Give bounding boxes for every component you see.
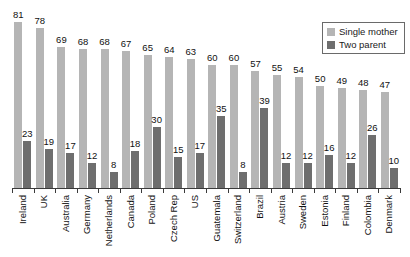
bar-value-label: 78	[35, 15, 46, 26]
axis-tick	[12, 188, 13, 193]
bar-value-label: 68	[78, 36, 89, 47]
axis-tick	[77, 188, 78, 193]
x-axis-label: Canada	[126, 195, 136, 228]
bar-value-label: 10	[389, 155, 400, 166]
bar-single: 81	[14, 22, 22, 188]
bar-group: 6035	[206, 14, 228, 188]
chart-legend: Single motherTwo parent	[322, 22, 405, 54]
bar-two: 12	[282, 163, 290, 188]
bar-single: 48	[359, 90, 367, 188]
bar-value-label: 12	[87, 150, 98, 161]
bar-chart: 8123781969176812688671865306415631760356…	[0, 0, 410, 257]
bar-two: 16	[325, 155, 333, 188]
x-axis-label: Australia	[61, 195, 71, 232]
x-axis-label-cell: Denmark	[379, 195, 401, 257]
axis-tick	[98, 188, 99, 193]
x-axis-label-cell: Sweden	[292, 195, 314, 257]
x-axis-label: Ireland	[18, 195, 28, 224]
bar-value-label: 64	[164, 44, 175, 55]
x-axis-label-cell: Netherlands	[98, 195, 120, 257]
bar-value-label: 8	[111, 159, 116, 170]
bar-two: 17	[66, 153, 74, 188]
x-axis-label-cell: Poland	[141, 195, 163, 257]
legend-label: Single mother	[339, 26, 398, 37]
x-axis-label: Switzerland	[233, 195, 243, 244]
x-axis-label-cell: US	[185, 195, 207, 257]
axis-tick	[163, 188, 164, 193]
bar-group: 6917	[55, 14, 77, 188]
bar-single: 60	[230, 65, 238, 188]
bar-single: 68	[79, 49, 87, 188]
bar-single: 57	[251, 71, 259, 188]
axis-tick	[249, 188, 250, 193]
bar-group: 8123	[12, 14, 34, 188]
bar-two: 30	[153, 127, 161, 188]
bar-value-label: 48	[358, 77, 369, 88]
bar-two: 8	[110, 172, 118, 188]
bar-value-label: 69	[56, 34, 67, 45]
x-axis-label: Finland	[341, 195, 351, 226]
x-axis-label: Estonia	[320, 195, 330, 227]
bar-single: 69	[57, 47, 65, 188]
axis-tick	[141, 188, 142, 193]
bar-value-label: 12	[302, 150, 313, 161]
x-axis-label: Colombia	[363, 195, 373, 235]
axis-tick	[314, 188, 315, 193]
axis-tick	[378, 188, 379, 193]
bar-value-label: 65	[142, 42, 153, 53]
bar-group: 6530	[141, 14, 163, 188]
bar-group: 608	[228, 14, 250, 188]
axis-tick	[206, 188, 207, 193]
bar-single: 50	[316, 86, 324, 188]
bar-value-label: 50	[315, 73, 326, 84]
bar-value-label: 30	[151, 114, 162, 125]
x-axis-label: Austria	[277, 195, 287, 225]
x-axis-label: US	[190, 195, 200, 208]
bar-group: 5412	[292, 14, 314, 188]
bar-value-label: 67	[121, 38, 132, 49]
x-axis-label-cell: Ireland	[12, 195, 34, 257]
bar-value-label: 60	[229, 52, 240, 63]
bar-single: 54	[295, 77, 303, 188]
bar-group: 5512	[271, 14, 293, 188]
bar-single: 64	[165, 57, 173, 188]
x-axis-label-cell: Colombia	[357, 195, 379, 257]
bar-two: 12	[88, 163, 96, 188]
legend-label: Two parent	[339, 39, 386, 50]
bar-group: 688	[98, 14, 120, 188]
x-axis-label: Germany	[82, 195, 92, 234]
bar-value-label: 81	[13, 9, 24, 20]
bar-two: 8	[239, 172, 247, 188]
axis-tick	[55, 188, 56, 193]
x-axis-label-cell: Switzerland	[228, 195, 250, 257]
bar-value-label: 55	[272, 62, 283, 73]
bar-value-label: 57	[250, 58, 261, 69]
x-axis-label: Netherlands	[104, 195, 114, 246]
bar-single: 60	[208, 65, 216, 188]
x-axis-label-cell: Czech Rep	[163, 195, 185, 257]
bar-value-label: 63	[185, 46, 196, 57]
axis-tick	[34, 188, 35, 193]
bar-two: 17	[196, 153, 204, 188]
x-axis-label: Brazil	[255, 195, 265, 219]
bar-group: 7819	[34, 14, 56, 188]
bar-single: 55	[273, 75, 281, 188]
bar-value-label: 12	[345, 150, 356, 161]
bar-single: 47	[381, 92, 389, 188]
bar-single: 68	[101, 49, 109, 188]
bar-value-label: 8	[240, 159, 245, 170]
bar-value-label: 16	[324, 142, 335, 153]
x-axis-label-cell: Brazil	[249, 195, 271, 257]
bar-value-label: 60	[207, 52, 218, 63]
bar-single: 78	[36, 28, 44, 188]
x-axis-label-cell: Estonia	[314, 195, 336, 257]
bar-value-label: 18	[130, 138, 141, 149]
x-axis-label: Czech Rep	[169, 195, 179, 242]
bar-value-label: 49	[336, 75, 347, 86]
axis-tick	[400, 188, 401, 193]
axis-tick	[120, 188, 121, 193]
bar-group: 6812	[77, 14, 99, 188]
bar-two: 15	[174, 157, 182, 188]
axis-tick	[228, 188, 229, 193]
bar-value-label: 17	[65, 140, 76, 151]
